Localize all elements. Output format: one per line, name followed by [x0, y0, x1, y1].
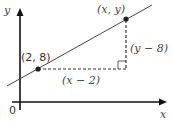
y-axis-arrow-icon: [17, 8, 24, 16]
point-x-y: [123, 16, 128, 21]
point-2-8: [35, 66, 40, 71]
x-axis-label: x: [160, 108, 167, 121]
vertical-leg-label: (y − 8): [130, 42, 168, 55]
x-axis-arrow-icon: [159, 99, 167, 106]
point-2-8-label: (2, 8): [21, 51, 51, 64]
y-axis-label: y: [3, 4, 11, 17]
right-angle-marker: [118, 61, 126, 69]
point-x-y-label: (x, y): [97, 3, 125, 16]
coordinate-diagram: y x 0 (2, 8) (x, y) (x − 2) (y − 8): [0, 0, 172, 122]
origin-label: 0: [9, 104, 16, 117]
horizontal-leg-label: (x − 2): [62, 74, 100, 87]
x-axis: [12, 99, 167, 106]
